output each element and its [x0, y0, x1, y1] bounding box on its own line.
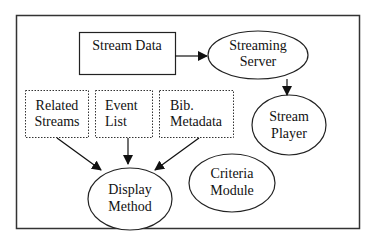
streaming-server-label-2: Server [240, 54, 277, 69]
related-streams-label-1: Related [36, 98, 79, 113]
event-list-label-2: List [105, 114, 127, 129]
display-method-label-2: Method [108, 199, 152, 214]
criteria-module-label-1: Criteria [211, 166, 255, 181]
stream-player-node: Stream Player [252, 95, 326, 155]
criteria-module-label-2: Module [210, 183, 254, 198]
related-streams-node: Related Streams [26, 91, 89, 138]
stream-player-label-2: Player [271, 126, 307, 141]
streaming-server-label-1: Streaming [229, 38, 287, 53]
arrow-bib-to-display [155, 138, 199, 170]
stream-data-label: Stream Data [92, 38, 162, 53]
display-method-label-1: Display [108, 182, 152, 197]
bib-metadata-label-2: Metadata [170, 114, 223, 129]
arrow-related-to-display [57, 138, 101, 170]
streaming-server-node: Streaming Server [208, 31, 308, 79]
criteria-module-node: Criteria Module [189, 154, 275, 212]
bib-metadata-label-1: Bib. [170, 98, 194, 113]
stream-data-node: Stream Data [80, 33, 176, 75]
bib-metadata-node: Bib. Metadata [160, 91, 234, 138]
related-streams-label-2: Streams [34, 114, 79, 129]
stream-player-label-1: Stream [269, 109, 309, 124]
event-list-node: Event List [96, 91, 153, 138]
event-list-label-1: Event [105, 98, 138, 113]
architecture-diagram: Stream Data Streaming Server Stream Play… [0, 0, 376, 240]
display-method-node: Display Method [88, 168, 172, 230]
